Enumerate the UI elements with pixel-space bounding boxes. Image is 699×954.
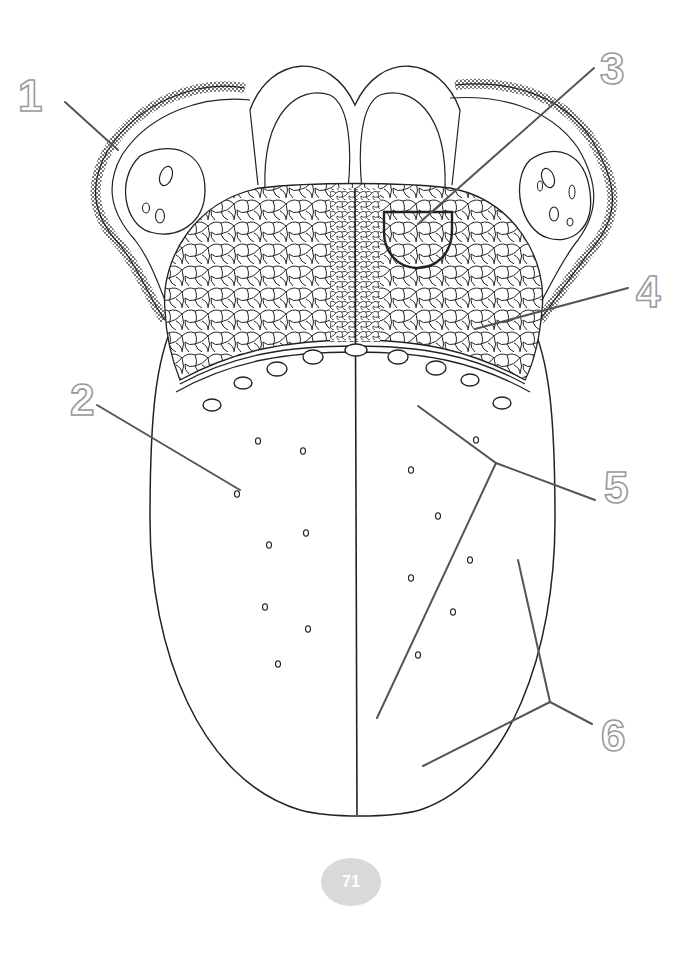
- label-6: 6: [601, 714, 625, 758]
- tongue-diagram: 1 2 3 4 5 6 71: [0, 0, 699, 954]
- label-3: 3: [600, 47, 624, 91]
- label-2: 2: [70, 378, 94, 422]
- tongue-illustration: [0, 0, 699, 954]
- label-5: 5: [604, 466, 628, 510]
- page-number-badge: 71: [321, 858, 381, 906]
- epiglottis-arches: [250, 66, 460, 190]
- page-number: 71: [342, 873, 360, 891]
- tongue-outline: [150, 320, 555, 816]
- label-4: 4: [636, 270, 660, 314]
- label-1: 1: [18, 74, 42, 118]
